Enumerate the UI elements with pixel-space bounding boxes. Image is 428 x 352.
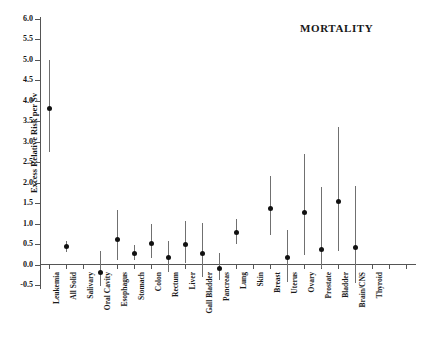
data-point [217, 266, 222, 271]
x-category-label: Ovary [307, 272, 316, 344]
data-point [149, 241, 154, 246]
x-tick [117, 265, 118, 269]
y-tick [35, 285, 40, 286]
x-category-label: Colon [154, 272, 163, 344]
x-axis-line [40, 264, 416, 265]
y-tick-label-wrap: 2.0 [0, 179, 33, 187]
y-tick [35, 244, 40, 245]
y-tick-label: 5.5 [7, 35, 33, 43]
y-tick-label: 2.5 [7, 158, 33, 166]
x-tick [253, 265, 254, 269]
mortality-excess-relative-risk-chart: MORTALITY Excess Relative Risk per Sv 6.… [0, 0, 428, 352]
data-point [353, 245, 358, 250]
y-tick-label-wrap: 2.5 [0, 158, 33, 166]
x-category-label: Stomach [137, 272, 146, 344]
y-axis-line [40, 17, 41, 289]
y-tick-label: 0.5 [7, 240, 33, 248]
x-category-label: Gall Bladder [205, 272, 214, 344]
x-tick [66, 265, 67, 269]
y-tick [35, 39, 40, 40]
y-tick-label-wrap: -0.5 [0, 281, 33, 289]
x-tick [304, 265, 305, 269]
x-tick [338, 265, 339, 269]
y-tick [35, 142, 40, 143]
x-tick [49, 265, 50, 269]
plot-area: 6.05.55.04.54.03.53.02.52.01.51.00.50.0-… [0, 0, 428, 352]
data-point [268, 206, 273, 211]
y-tick-label-wrap: 1.5 [0, 199, 33, 207]
x-tick [389, 265, 390, 269]
x-category-label: Liver [188, 272, 197, 344]
data-point [166, 255, 171, 260]
x-category-label: Leukemia [52, 272, 61, 344]
y-tick-label-wrap: 3.0 [0, 138, 33, 146]
y-tick-label-wrap: 3.5 [0, 117, 33, 125]
x-tick [134, 265, 135, 269]
data-point [234, 230, 239, 235]
error-bar [202, 223, 203, 277]
error-bar [117, 210, 118, 259]
x-tick [185, 265, 186, 269]
error-bar [338, 127, 339, 251]
y-tick [35, 60, 40, 61]
x-category-label: Bladder [341, 272, 350, 344]
y-tick-label-wrap: 0.0 [0, 261, 33, 269]
error-bar [355, 186, 356, 283]
error-bar [304, 154, 305, 256]
x-tick [236, 265, 237, 269]
y-tick [35, 121, 40, 122]
y-tick-label-wrap: 5.5 [0, 35, 33, 43]
y-tick-label: 3.0 [7, 138, 33, 146]
x-category-label: All Solid [69, 272, 78, 344]
y-tick-label-wrap: 1.0 [0, 220, 33, 228]
x-category-label: Brain/CNS [358, 272, 367, 344]
y-tick [35, 203, 40, 204]
y-tick-label-wrap: 4.5 [0, 76, 33, 84]
data-point [336, 199, 341, 204]
data-point [132, 251, 137, 256]
y-tick-label: 0.0 [7, 261, 33, 269]
x-category-label: Breast [273, 272, 282, 344]
error-bar [100, 251, 101, 286]
error-bar [321, 187, 322, 268]
data-point [183, 242, 188, 247]
x-category-label: Esophagus [120, 272, 129, 344]
x-tick [270, 265, 271, 269]
y-tick-label-wrap: 4.0 [0, 97, 33, 105]
y-tick [35, 183, 40, 184]
y-tick-label: -0.5 [7, 281, 33, 289]
y-tick-label: 1.0 [7, 220, 33, 228]
data-point [115, 237, 120, 242]
x-category-label: Salivary [86, 272, 95, 344]
y-tick [35, 162, 40, 163]
y-tick-label: 5.0 [7, 56, 33, 64]
data-point [319, 247, 324, 252]
x-category-label: Rectum [171, 272, 180, 344]
y-tick [35, 265, 40, 266]
data-point [200, 251, 205, 256]
data-point [64, 244, 69, 249]
x-category-label: Lung [239, 272, 248, 344]
y-tick-label: 3.5 [7, 117, 33, 125]
y-tick-label-wrap: 6.0 [0, 15, 33, 23]
y-tick [35, 224, 40, 225]
x-category-label: Thyroid [375, 272, 384, 344]
x-category-label: Skin [256, 272, 265, 344]
x-category-label: Oral Cavity [103, 272, 112, 344]
x-category-label: Pancreas [222, 272, 231, 344]
y-tick-label: 6.0 [7, 15, 33, 23]
x-tick [151, 265, 152, 269]
y-tick-label-wrap: 0.5 [0, 240, 33, 248]
y-tick [35, 19, 40, 20]
y-tick-label: 4.5 [7, 76, 33, 84]
data-point [285, 255, 290, 260]
y-tick [35, 80, 40, 81]
y-tick-label: 2.0 [7, 179, 33, 187]
x-tick [372, 265, 373, 269]
x-tick [406, 265, 407, 269]
y-tick-label: 1.5 [7, 199, 33, 207]
x-category-label: Uterus [290, 272, 299, 344]
y-tick-label-wrap: 5.0 [0, 56, 33, 64]
y-tick [35, 101, 40, 102]
data-point [47, 106, 52, 111]
